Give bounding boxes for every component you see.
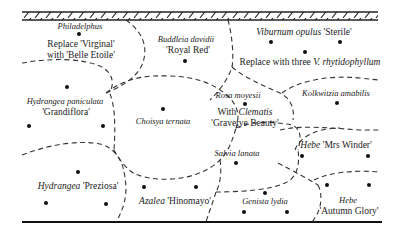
wall bbox=[22, 12, 378, 20]
label-rosa-clematis-cultivar: 'Gravetye Beauty' bbox=[211, 118, 279, 129]
label-hebe-cultivar: 'Mrs Winder' bbox=[323, 140, 372, 150]
label-viburnum-note-plain: Replace with three bbox=[240, 57, 311, 67]
label-rosa-note-plain: With bbox=[218, 107, 237, 117]
label-hebe-genus: Hebe bbox=[300, 140, 320, 150]
label-azalea-genus: Azalea bbox=[139, 196, 165, 206]
label-hebe-autumn-cultivar: 'Autumn Glory' bbox=[319, 206, 378, 217]
label-genista: Genista lydia bbox=[242, 196, 288, 207]
label-viburnum-cultivar: 'Sterile' bbox=[324, 27, 352, 37]
label-hydrangea-cultivar: 'Preziosa' bbox=[83, 181, 119, 191]
label-viburnum-species: Viburnum opulus bbox=[256, 27, 321, 37]
label-philadelphus: Philadelphus bbox=[58, 21, 103, 32]
label-philadelphus-note1: Replace 'Virginal' bbox=[47, 39, 114, 50]
label-hydrangea-paniculata-cultivar: 'Grandiflora' bbox=[42, 107, 90, 118]
label-hydrangea-genus: Hydrangea bbox=[38, 181, 81, 191]
label-azalea: Azalea 'Hinomayo' bbox=[139, 196, 211, 207]
label-rosa: Rosa moyesii bbox=[215, 90, 260, 101]
label-viburnum-note-species: V. rhytidophyllum bbox=[313, 57, 380, 67]
label-hebe-autumn: Hebe bbox=[339, 195, 357, 206]
label-hebe-mrs-winder: Hebe 'Mrs Winder' bbox=[300, 140, 371, 151]
label-azalea-cultivar: 'Hinomayo' bbox=[167, 196, 211, 206]
label-rosa-note-genus: Clematis bbox=[239, 107, 273, 117]
label-buddleia-cultivar: 'Royal Red' bbox=[166, 45, 210, 56]
label-hydrangea-paniculata: Hydrangea paniculata bbox=[27, 96, 104, 107]
label-buddleia: Buddleia davidii bbox=[158, 34, 214, 45]
label-salvia: Salvia lanata bbox=[214, 148, 259, 159]
label-kolkwitzia: Kolkwitzia amabilis bbox=[302, 88, 370, 99]
label-rosa-note: With Clematis bbox=[218, 107, 273, 118]
label-hydrangea-preziosa: Hydrangea 'Preziosa' bbox=[38, 181, 119, 192]
label-viburnum-note: Replace with three V. rhytidophyllum bbox=[240, 57, 381, 68]
label-philadelphus-note2: with 'Belle Etoile' bbox=[47, 50, 115, 61]
label-choisya: Choisya ternata bbox=[136, 116, 191, 127]
label-viburnum: Viburnum opulus 'Sterile' bbox=[256, 27, 352, 38]
